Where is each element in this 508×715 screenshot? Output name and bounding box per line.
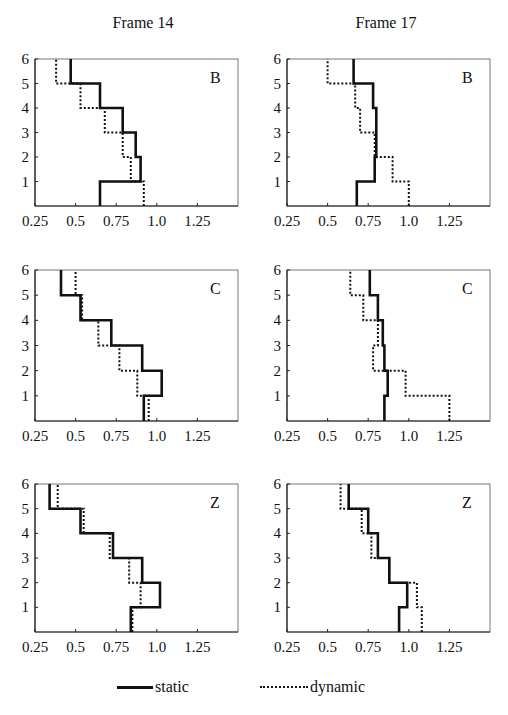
panel-b-frame-17: 1234560.250.50.751.01.25B bbox=[274, 51, 491, 229]
x-tick-label: 0.5 bbox=[318, 428, 337, 444]
y-tick-label: 5 bbox=[274, 76, 282, 92]
y-tick-label: 5 bbox=[22, 287, 30, 303]
y-tick-label: 4 bbox=[22, 100, 30, 116]
x-tick-label: 1.25 bbox=[436, 213, 462, 229]
x-tick-label: 1.25 bbox=[436, 428, 462, 444]
y-tick-label: 2 bbox=[274, 363, 282, 379]
x-tick-label: 1.25 bbox=[184, 428, 210, 444]
y-tick-label: 2 bbox=[22, 363, 30, 379]
y-tick-label: 5 bbox=[274, 287, 282, 303]
y-tick-label: 3 bbox=[22, 338, 30, 354]
x-tick-label: 0.5 bbox=[318, 639, 337, 655]
dynamic-profile-line bbox=[350, 270, 449, 421]
x-tick-label: 1.0 bbox=[399, 639, 418, 655]
x-tick-label: 0.5 bbox=[66, 428, 85, 444]
y-tick-label: 1 bbox=[22, 599, 30, 615]
x-tick-label: 0.25 bbox=[274, 639, 300, 655]
x-tick-label: 1.0 bbox=[147, 428, 166, 444]
x-tick-label: 0.75 bbox=[103, 428, 129, 444]
legend-static-label: static bbox=[155, 678, 189, 696]
dynamic-profile-line bbox=[328, 59, 409, 206]
y-tick-label: 3 bbox=[274, 125, 282, 141]
y-tick-label: 5 bbox=[22, 76, 30, 92]
panel-label: B bbox=[210, 69, 221, 86]
y-tick-label: 3 bbox=[274, 550, 282, 566]
y-tick-label: 3 bbox=[22, 550, 30, 566]
x-tick-label: 0.25 bbox=[22, 639, 48, 655]
panel-b-frame-14: 1234560.250.50.751.01.25B bbox=[22, 51, 239, 229]
panel-z-frame-17: 1234560.250.50.751.01.25Z bbox=[274, 476, 491, 655]
x-tick-label: 0.75 bbox=[355, 428, 381, 444]
y-tick-label: 2 bbox=[274, 575, 282, 591]
x-tick-label: 0.5 bbox=[318, 213, 337, 229]
x-tick-label: 1.0 bbox=[399, 213, 418, 229]
legend-static: static bbox=[117, 678, 189, 696]
x-tick-label: 1.25 bbox=[184, 213, 210, 229]
y-tick-label: 4 bbox=[274, 525, 282, 541]
y-tick-label: 2 bbox=[22, 575, 30, 591]
x-tick-label: 0.5 bbox=[66, 213, 85, 229]
x-tick-label: 0.5 bbox=[66, 639, 85, 655]
y-tick-label: 6 bbox=[22, 476, 30, 492]
plot-frame bbox=[287, 59, 490, 206]
panel-z-frame-14: 1234560.250.50.751.01.25Z bbox=[22, 476, 239, 655]
x-tick-label: 0.75 bbox=[103, 213, 129, 229]
y-tick-label: 6 bbox=[274, 476, 282, 492]
x-tick-label: 1.25 bbox=[184, 639, 210, 655]
x-tick-label: 0.25 bbox=[22, 428, 48, 444]
panel-label: C bbox=[210, 280, 221, 297]
legend-dynamic-label: dynamic bbox=[310, 678, 365, 696]
panel-label: Z bbox=[462, 494, 472, 511]
x-tick-label: 1.0 bbox=[147, 213, 166, 229]
x-tick-label: 1.0 bbox=[147, 639, 166, 655]
x-tick-label: 1.0 bbox=[399, 428, 418, 444]
y-tick-label: 6 bbox=[274, 262, 282, 278]
x-tick-label: 0.75 bbox=[103, 639, 129, 655]
x-tick-label: 0.75 bbox=[355, 639, 381, 655]
panel-c-frame-14: 1234560.250.50.751.01.25C bbox=[22, 262, 239, 444]
panel-label: B bbox=[462, 69, 473, 86]
legend-dynamic: dynamic bbox=[260, 678, 365, 696]
solid-line-swatch bbox=[117, 686, 153, 689]
y-tick-label: 1 bbox=[274, 174, 282, 190]
y-tick-label: 1 bbox=[274, 599, 282, 615]
y-tick-label: 6 bbox=[22, 51, 30, 67]
y-tick-label: 6 bbox=[22, 262, 30, 278]
y-tick-label: 3 bbox=[22, 125, 30, 141]
y-tick-label: 1 bbox=[274, 388, 282, 404]
panel-c-frame-17: 1234560.250.50.751.01.25C bbox=[274, 262, 491, 444]
y-tick-label: 4 bbox=[274, 312, 282, 328]
y-tick-label: 1 bbox=[22, 388, 30, 404]
x-tick-label: 0.75 bbox=[355, 213, 381, 229]
y-tick-label: 5 bbox=[274, 501, 282, 517]
x-tick-label: 0.25 bbox=[274, 213, 300, 229]
y-tick-label: 4 bbox=[22, 312, 30, 328]
x-tick-label: 0.25 bbox=[22, 213, 48, 229]
panel-label: Z bbox=[210, 494, 220, 511]
y-tick-label: 5 bbox=[22, 501, 30, 517]
y-tick-label: 4 bbox=[274, 100, 282, 116]
y-tick-label: 2 bbox=[274, 149, 282, 165]
static-profile-line bbox=[349, 484, 408, 632]
x-tick-label: 0.25 bbox=[274, 428, 300, 444]
figure-panels: 1234560.250.50.751.01.25B1234560.250.50.… bbox=[0, 0, 508, 715]
x-tick-label: 1.25 bbox=[436, 639, 462, 655]
y-tick-label: 2 bbox=[22, 149, 30, 165]
y-tick-label: 6 bbox=[274, 51, 282, 67]
y-tick-label: 4 bbox=[22, 525, 30, 541]
panel-label: C bbox=[462, 280, 473, 297]
y-tick-label: 1 bbox=[22, 174, 30, 190]
plot-frame bbox=[287, 270, 490, 421]
dotted-line-swatch bbox=[260, 686, 308, 688]
y-tick-label: 3 bbox=[274, 338, 282, 354]
static-profile-line bbox=[50, 484, 160, 632]
